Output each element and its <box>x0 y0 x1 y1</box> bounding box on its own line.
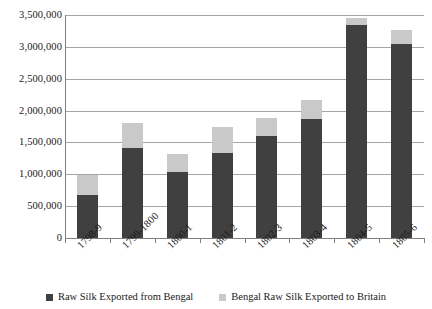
y-axis-tick-label: 1,500,000 <box>0 137 62 147</box>
bar-segment-bengal-raw-silk-exported-to-britain[interactable] <box>256 118 277 136</box>
light-square-swatch-icon <box>219 294 226 301</box>
x-axis-tick-mark <box>110 238 111 243</box>
bar-segment-bengal-raw-silk-exported-to-britain[interactable] <box>301 100 322 119</box>
y-axis-line <box>65 15 66 238</box>
gridline <box>65 47 424 48</box>
gridline <box>65 174 424 175</box>
bar-segment-bengal-raw-silk-exported-to-britain[interactable] <box>77 175 98 195</box>
bar-segment-bengal-raw-silk-exported-to-britain[interactable] <box>212 127 233 152</box>
bar-segment-bengal-raw-silk-exported-to-britain[interactable] <box>167 154 188 172</box>
x-axis-tick-mark <box>200 238 201 243</box>
bar-segment-raw-silk-exported-from-bengal[interactable] <box>346 25 367 238</box>
gridline <box>65 142 424 143</box>
x-axis-tick-mark <box>379 238 380 243</box>
x-axis-tick-mark <box>289 238 290 243</box>
plot-area <box>65 15 424 238</box>
bar-segment-bengal-raw-silk-exported-to-britain[interactable] <box>391 30 412 44</box>
gridline <box>65 15 424 16</box>
bar-group[interactable] <box>77 15 98 238</box>
stacked-bar-chart: 3,500,0003,000,0002,500,0002,000,0001,50… <box>0 0 432 309</box>
gridline <box>65 79 424 80</box>
bar-group[interactable] <box>301 15 322 238</box>
bar-segment-bengal-raw-silk-exported-to-britain[interactable] <box>346 18 367 25</box>
bar-group[interactable] <box>212 15 233 238</box>
y-axis-tick-label: 3,500,000 <box>0 10 62 20</box>
gridline <box>65 111 424 112</box>
legend-label: Bengal Raw Silk Exported to Britain <box>231 291 386 303</box>
chart-legend: Raw Silk Exported from Bengal Bengal Raw… <box>0 288 432 306</box>
legend-label: Raw Silk Exported from Bengal <box>58 291 193 303</box>
bar-segment-bengal-raw-silk-exported-to-britain[interactable] <box>122 123 143 148</box>
x-axis-tick-mark <box>155 238 156 243</box>
y-axis-tick-label: 0 <box>0 233 62 243</box>
x-axis-tick-mark <box>424 238 425 243</box>
bar-group[interactable] <box>391 15 412 238</box>
y-axis-tick-label: 3,000,000 <box>0 42 62 52</box>
bar-group[interactable] <box>346 15 367 238</box>
bar-group[interactable] <box>122 15 143 238</box>
y-axis-tick-label: 2,500,000 <box>0 74 62 84</box>
y-axis-tick-label: 2,000,000 <box>0 106 62 116</box>
x-axis-tick-mark <box>245 238 246 243</box>
x-axis-tick-mark <box>65 238 66 243</box>
bar-segment-raw-silk-exported-from-bengal[interactable] <box>301 119 322 238</box>
y-axis-labels: 3,500,0003,000,0002,500,0002,000,0001,50… <box>0 0 62 309</box>
y-axis-tick-label: 500,000 <box>0 201 62 211</box>
x-axis-tick-mark <box>334 238 335 243</box>
legend-item-raw-silk-exported-from-bengal: Raw Silk Exported from Bengal <box>46 291 193 303</box>
y-axis-tick-label: 1,000,000 <box>0 169 62 179</box>
bar-group[interactable] <box>167 15 188 238</box>
gridline <box>65 206 424 207</box>
legend-item-bengal-raw-silk-exported-to-britain: Bengal Raw Silk Exported to Britain <box>219 291 386 303</box>
bar-segment-raw-silk-exported-from-bengal[interactable] <box>391 44 412 238</box>
bar-group[interactable] <box>256 15 277 238</box>
dark-square-swatch-icon <box>46 294 53 301</box>
